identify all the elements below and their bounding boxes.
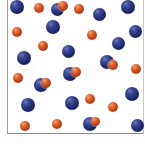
orange-particle — [34, 3, 44, 13]
blue-particle — [129, 25, 142, 38]
blue-particle — [121, 0, 135, 14]
blue-particle — [46, 20, 60, 34]
orange-particle — [108, 102, 118, 112]
blue-particle — [21, 98, 35, 112]
blue-particle — [17, 51, 31, 65]
orange-particle — [131, 64, 141, 74]
blue-particle — [125, 87, 139, 101]
orange-particle — [52, 119, 62, 129]
orange-particle — [41, 78, 51, 88]
orange-particle — [108, 60, 118, 70]
blue-particle — [93, 8, 106, 21]
orange-particle — [74, 4, 84, 14]
orange-particle — [12, 27, 22, 37]
blue-particle — [131, 119, 144, 132]
blue-particle — [62, 45, 75, 58]
particle-layer — [0, 0, 145, 144]
orange-particle — [13, 73, 23, 83]
particle-mixture-figure — [0, 0, 145, 144]
orange-particle — [91, 117, 100, 126]
orange-particle — [85, 94, 95, 104]
blue-particle — [10, 0, 24, 14]
blue-particle — [112, 37, 125, 50]
orange-particle — [58, 1, 68, 11]
orange-particle — [71, 67, 81, 77]
blue-particle — [65, 96, 79, 110]
orange-particle — [20, 121, 30, 131]
orange-particle — [87, 30, 97, 40]
baseline-margin — [0, 135, 145, 144]
left-margin — [0, 0, 7, 144]
orange-particle — [38, 41, 48, 51]
